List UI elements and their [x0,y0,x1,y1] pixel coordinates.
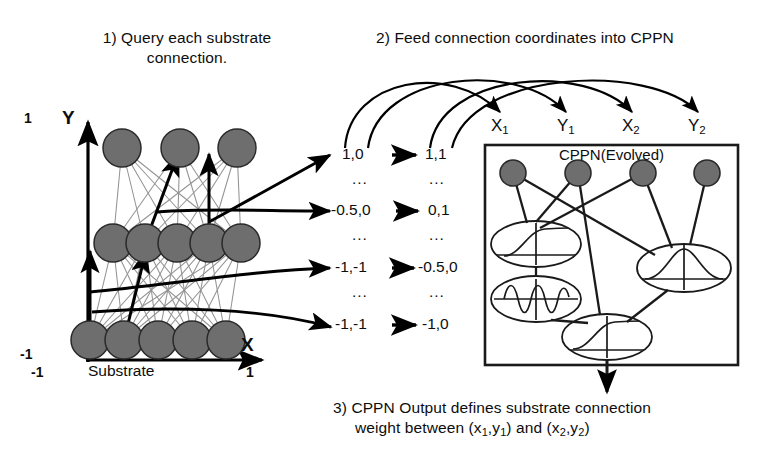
coordinate-target-3: -1,0 [422,315,449,333]
cppn-node-h2-sine [491,276,581,322]
axis-x-min-label: -1 [31,364,43,380]
coordinate-target-ellipsis-1: ... [429,226,445,244]
caption-step-1: 1) Query each substrate connection. [72,28,302,68]
cppn-input-label-y1: Y1 [557,116,575,136]
coordinate-feed-arcs [345,80,698,148]
axis-y-title: Y [62,107,75,129]
coordinate-target-1: 0,1 [428,201,450,219]
caption-step-3: 3) CPPN Output defines substrate connect… [333,398,773,442]
coordinate-target-ellipsis-0: ... [429,170,445,188]
cppn-node-h3-gaussian [637,244,731,292]
cppn-node-out-sigmoid [562,314,652,360]
cppn-box-title: CPPN(Evolved) [485,146,738,163]
coordinate-source-3: -1,-1 [335,315,367,333]
caption-step-3-line1: 3) CPPN Output defines substrate connect… [333,399,651,416]
coordinate-ellipsis-1: ... [352,226,368,244]
coordinate-target-2: -0.5,0 [418,258,458,276]
axis-x-title: X [241,334,254,356]
caption-step-3-line2: weight between (x1,y1) and (x2,y2) [333,418,773,442]
cppn-input-label-x2: X2 [622,116,640,136]
coordinate-source-0: 1,0 [342,145,364,163]
coordinate-map-arrows [392,155,418,325]
figure-canvas: 1) Query each substrate connection. 2) F… [0,0,774,476]
axis-y-min-label: -1 [20,346,32,362]
cppn-node-h1-sigmoid [491,221,581,267]
cppn-input-nodes [500,160,720,186]
coordinate-ellipsis-2: ... [352,283,368,301]
axis-y-max-label: 1 [24,110,32,126]
caption-step-2: 2) Feed connection coordinates into CPPN [303,28,747,48]
coordinate-source-2: -1,-1 [335,258,367,276]
axis-x-max-label: 1 [246,364,254,380]
coordinate-target-ellipsis-2: ... [429,283,445,301]
substrate-plot-label: Substrate [88,362,154,380]
coordinate-target-0: 1,1 [425,145,447,163]
substrate-nodes [71,129,260,359]
coordinate-source-1: -0.5,0 [331,201,371,219]
coordinate-ellipsis-0: ... [352,170,368,188]
cppn-input-label-x1: X1 [491,116,509,136]
cppn-input-label-y2: Y2 [688,116,706,136]
